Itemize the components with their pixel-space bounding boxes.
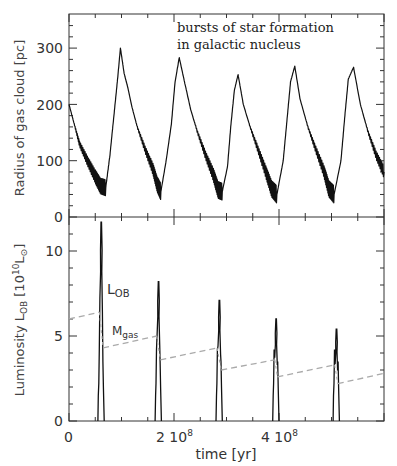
ytick-label: 10 bbox=[45, 243, 63, 259]
ylabel-main: Luminosity L bbox=[12, 313, 27, 396]
xlabel: time [yr] bbox=[195, 446, 256, 462]
xtick-exp: 8 bbox=[187, 428, 193, 438]
bottom-ytick-labels: 0 5 10 bbox=[45, 243, 63, 429]
lob-label: LOB bbox=[107, 281, 130, 299]
radius-curve bbox=[69, 48, 384, 203]
xtick-mantissa: 2 10 bbox=[156, 429, 187, 445]
ytick-label: 5 bbox=[54, 328, 63, 344]
mgas-sub: gas bbox=[122, 330, 138, 340]
bottom-ylabel: Luminosity LOB[1010L⊙] bbox=[11, 244, 29, 397]
chart-figure: bursts of star formation in galactic nuc… bbox=[0, 0, 397, 466]
ylabel-unit-post: ] bbox=[12, 244, 27, 249]
luminosity-curves bbox=[69, 222, 384, 421]
lob-main: L bbox=[107, 281, 115, 297]
sun-symbol-icon: ⊙ bbox=[19, 249, 29, 257]
mgas-main: M bbox=[112, 324, 122, 338]
ylabel-unit-exp: 10 bbox=[11, 263, 21, 275]
bottom-ylabel-text: Luminosity LOB[1010L⊙] bbox=[11, 244, 29, 397]
mgas-label: Mgas bbox=[112, 324, 139, 340]
ytick-label: 0 bbox=[54, 209, 63, 225]
xtick-exp: 8 bbox=[292, 428, 298, 438]
xtick-labels: 0 2 108 4 108 bbox=[64, 428, 298, 445]
annotation-line-1: bursts of star formation bbox=[177, 20, 335, 35]
ylabel-sub: OB bbox=[19, 301, 29, 314]
ytick-label: 200 bbox=[36, 97, 63, 113]
ylabel-unit-pre: [10 bbox=[12, 275, 27, 297]
ytick-label: 100 bbox=[36, 153, 63, 169]
xtick-label-0: 0 bbox=[64, 429, 73, 445]
xtick-label-4e8: 4 108 bbox=[261, 428, 298, 445]
lob-sub: OB bbox=[115, 288, 130, 299]
ytick-label: 300 bbox=[36, 40, 63, 56]
ytick-label: 0 bbox=[54, 413, 63, 429]
top-ylabel: Radius of gas cloud [pc] bbox=[12, 40, 27, 196]
top-ytick-labels: 0 100 200 300 bbox=[36, 40, 63, 225]
annotation-line-2: in galactic nucleus bbox=[177, 37, 301, 52]
xtick-mantissa: 4 10 bbox=[261, 429, 292, 445]
xtick-label-2e8: 2 108 bbox=[156, 428, 193, 445]
